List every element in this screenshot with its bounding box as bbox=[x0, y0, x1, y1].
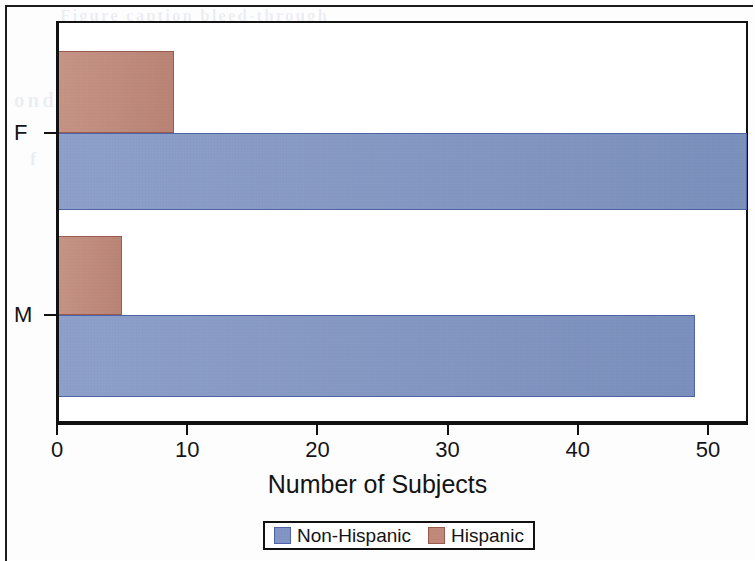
x-tick-30 bbox=[447, 424, 449, 435]
x-tick-0 bbox=[56, 424, 58, 435]
bar-m-non-hispanic bbox=[57, 315, 695, 397]
y-axis-line bbox=[56, 21, 59, 425]
legend-item-hispanic[interactable]: Hispanic bbox=[428, 526, 524, 545]
y-tick-m bbox=[44, 314, 57, 316]
bar-f-non-hispanic bbox=[57, 133, 747, 210]
x-tick-50 bbox=[707, 424, 709, 435]
x-axis-line bbox=[57, 422, 748, 425]
y-tick-f bbox=[44, 132, 57, 134]
chart-legend: Non-Hispanic Hispanic bbox=[263, 521, 535, 550]
blue-swatch-icon bbox=[274, 527, 291, 544]
x-axis-title: Number of Subjects bbox=[0, 470, 755, 499]
x-tick-label-20: 20 bbox=[305, 437, 329, 463]
x-tick-10 bbox=[186, 424, 188, 435]
red-swatch-icon bbox=[428, 527, 445, 544]
legend-label-non-hispanic: Non-Hispanic bbox=[297, 526, 411, 545]
x-tick-label-10: 10 bbox=[175, 437, 199, 463]
x-tick-20 bbox=[316, 424, 318, 435]
plot-area bbox=[57, 21, 748, 423]
x-tick-label-0: 0 bbox=[51, 437, 63, 463]
legend-label-hispanic: Hispanic bbox=[451, 526, 524, 545]
x-tick-40 bbox=[577, 424, 579, 435]
x-tick-label-50: 50 bbox=[696, 437, 720, 463]
x-tick-label-40: 40 bbox=[566, 437, 590, 463]
legend-item-non-hispanic[interactable]: Non-Hispanic bbox=[274, 526, 411, 545]
bar-m-hispanic bbox=[57, 236, 122, 315]
y-tick-label-f: F bbox=[14, 120, 27, 146]
y-tick-label-m: M bbox=[14, 302, 32, 328]
x-tick-label-30: 30 bbox=[435, 437, 459, 463]
bar-f-hispanic bbox=[57, 51, 174, 133]
